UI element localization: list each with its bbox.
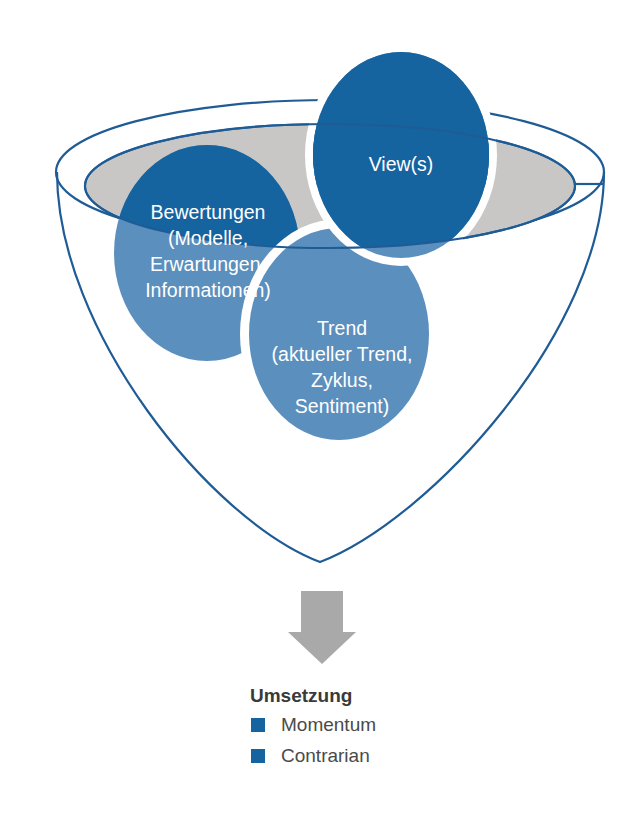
label-trend-line-2: Zyklus,: [311, 369, 373, 391]
label-bewertungen-line-0: Bewertungen: [151, 201, 266, 223]
legend-swatch-momentum: [251, 718, 265, 732]
label-trend-line-0: Trend: [317, 317, 367, 339]
funnel-diagram: View(s) Bewertungen (Modelle, Erwartunge…: [0, 0, 641, 819]
label-views-line-0: View(s): [369, 153, 434, 175]
label-bewertungen-line-2: Erwartungen,: [150, 253, 266, 275]
label-bewertungen-line-1: (Modelle,: [168, 227, 248, 249]
legend: Umsetzung Momentum Contrarian: [250, 685, 376, 766]
legend-item-contrarian[interactable]: Contrarian: [251, 745, 370, 766]
down-arrow-icon: [288, 591, 356, 664]
legend-swatch-contrarian: [251, 749, 265, 763]
label-trend-line-1: (aktueller Trend,: [272, 343, 413, 365]
legend-item-momentum[interactable]: Momentum: [251, 714, 376, 735]
label-bewertungen-line-3: Informationen): [145, 279, 271, 301]
legend-label-contrarian: Contrarian: [281, 745, 370, 766]
label-views: View(s): [369, 153, 434, 175]
legend-title: Umsetzung: [250, 685, 352, 706]
label-trend-line-3: Sentiment): [295, 395, 389, 417]
legend-label-momentum: Momentum: [281, 714, 376, 735]
diagram-canvas: View(s) Bewertungen (Modelle, Erwartunge…: [0, 0, 641, 819]
